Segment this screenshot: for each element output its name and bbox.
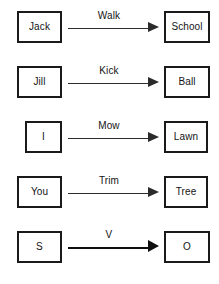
arrowhead-icon	[148, 132, 159, 142]
edge-line	[68, 193, 150, 194]
source-node[interactable]: S	[17, 231, 62, 263]
target-node-label: School	[171, 22, 202, 32]
target-node-label: Ball	[178, 77, 195, 87]
edge-line	[68, 83, 150, 84]
target-node[interactable]: Tree	[164, 176, 208, 208]
edge-line	[68, 247, 150, 249]
arrowhead-icon	[148, 187, 159, 197]
edge-connector[interactable]: Trim	[68, 176, 160, 208]
diagram-row: Jack Walk School	[0, 0, 219, 44]
diagram-row: Jill Kick Ball	[0, 55, 219, 99]
source-node-label: You	[31, 187, 48, 197]
source-node[interactable]: You	[17, 176, 62, 208]
edge-connector[interactable]: Walk	[68, 11, 160, 43]
target-node-label: O	[183, 242, 191, 252]
edge-connector[interactable]: V	[68, 231, 160, 263]
diagram-row: You Trim Tree	[0, 165, 219, 209]
target-node[interactable]: Lawn	[164, 121, 208, 153]
source-node-label: S	[36, 242, 43, 252]
target-node-label: Tree	[176, 187, 197, 197]
diagram-canvas: Jack Walk School Jill Kick Ball I Mow	[0, 0, 219, 284]
target-node-label: Lawn	[174, 132, 198, 142]
arrowhead-icon	[148, 22, 159, 32]
edge-label: Trim	[68, 176, 150, 186]
source-node-label: I	[42, 132, 45, 142]
target-node[interactable]: O	[164, 231, 210, 263]
edge-label: Kick	[68, 66, 150, 76]
source-node[interactable]: Jill	[17, 66, 62, 98]
arrowhead-icon	[148, 240, 159, 252]
edge-connector[interactable]: Mow	[68, 121, 160, 153]
edge-line	[68, 28, 150, 29]
source-node-label: Jack	[29, 22, 50, 32]
source-node[interactable]: I	[25, 121, 62, 153]
target-node[interactable]: Ball	[164, 66, 210, 98]
edge-label: Mow	[68, 121, 150, 131]
edge-line	[68, 138, 150, 139]
source-node[interactable]: Jack	[17, 11, 62, 43]
source-node-label: Jill	[33, 77, 45, 87]
edge-label: Walk	[68, 11, 150, 21]
edge-connector[interactable]: Kick	[68, 66, 160, 98]
arrowhead-icon	[148, 77, 159, 87]
edge-label: V	[68, 230, 150, 240]
diagram-row: I Mow Lawn	[0, 110, 219, 154]
target-node[interactable]: School	[164, 11, 210, 43]
diagram-row: S V O	[0, 220, 219, 264]
